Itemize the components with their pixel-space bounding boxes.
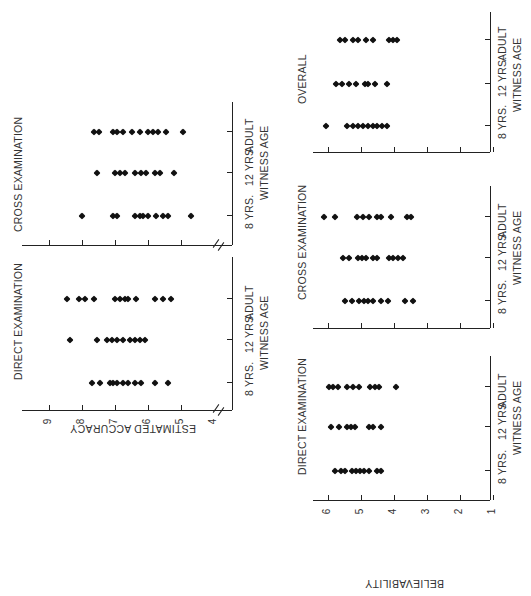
- accuracy-direct-axis-break: [213, 404, 220, 413]
- accuracy-direct-tick-label: 4: [207, 419, 218, 425]
- accuracy-direct-title: DIRECT EXAMINATION: [12, 263, 24, 380]
- accuracy-direct-category-tick: [227, 382, 232, 383]
- believability-direct-data-point: [336, 423, 343, 430]
- believability-overall-category-tick: [485, 125, 490, 126]
- accuracy-cross-data-point: [136, 128, 143, 135]
- believability-cross-data-point: [321, 213, 328, 220]
- accuracy-direct-data-point: [90, 295, 97, 302]
- believability-direct-tick-label: 5: [354, 509, 365, 515]
- believability-cross-tick: [493, 323, 494, 328]
- accuracy-cross-data-point: [121, 169, 128, 176]
- believability-direct-tick-label: 6: [321, 509, 332, 515]
- accuracy-cross-category-label: 8 YRS.: [243, 195, 255, 229]
- believability-direct-data-point: [378, 423, 385, 430]
- believability-direct-title: DIRECT EXAMINATION: [296, 358, 308, 475]
- accuracy-cross-data-point: [93, 169, 100, 176]
- believability-overall-data-point: [354, 36, 361, 43]
- believability-direct-category-label: ADULT: [496, 373, 508, 408]
- accuracy-direct-category-label: 8 YRS.: [243, 362, 255, 396]
- believability-direct-tick: [361, 495, 362, 500]
- believability-direct-tick: [328, 495, 329, 500]
- accuracy-cross-category-axis: [232, 102, 233, 245]
- accuracy-direct-data-point: [93, 336, 100, 343]
- believability-direct-data-point: [365, 467, 372, 474]
- accuracy-direct-value-axis: [22, 410, 232, 411]
- accuracy-direct-axis-break: [218, 407, 225, 416]
- believability-direct-tick-label: 1: [486, 509, 497, 515]
- believability-cross-tick: [427, 323, 428, 328]
- believability-overall-tick: [361, 147, 362, 152]
- believability-overall-category-tick: [485, 39, 490, 40]
- believability-overall-category-label: 12 YRS.: [496, 57, 508, 97]
- believability-cross-category-tick: [485, 216, 490, 217]
- believability-overall-data-point: [372, 80, 379, 87]
- believability-direct-value-axis: [313, 500, 490, 501]
- accuracy-cross-title: CROSS EXAMINATION: [12, 117, 24, 232]
- believability-cross-data-point: [409, 297, 416, 304]
- accuracy-direct-data-point: [164, 379, 171, 386]
- accuracy-direct-data-point: [97, 379, 104, 386]
- accuracy-cross-tick: [181, 240, 182, 245]
- believability-cross-tick: [361, 323, 362, 328]
- accuracy-direct-data-point: [82, 295, 89, 302]
- accuracy-direct-tick-label: 9: [42, 419, 53, 425]
- accuracy-direct-category-tick: [227, 298, 232, 299]
- accuracy-cross-tick: [115, 240, 116, 245]
- accuracy-direct-data-point: [159, 295, 166, 302]
- accuracy-cross-data-point: [179, 128, 186, 135]
- believability-direct-data-point: [376, 383, 383, 390]
- believability-direct-data-point: [392, 383, 399, 390]
- believability-overall-data-point: [341, 36, 348, 43]
- accuracy-cross-category-label: ADULT: [243, 118, 255, 153]
- accuracy-direct-data-point: [64, 295, 71, 302]
- accuracy-cross-data-point: [171, 169, 178, 176]
- accuracy-cross-data-point: [128, 128, 135, 135]
- believability-overall-data-point: [383, 80, 390, 87]
- believability-overall-tick: [328, 147, 329, 152]
- believability-cross-data-point: [331, 213, 338, 220]
- accuracy-direct-data-point: [125, 295, 132, 302]
- accuracy-direct-data-point: [133, 295, 140, 302]
- believability-direct-tick: [493, 495, 494, 500]
- accuracy-direct-tick: [148, 405, 149, 410]
- believability-cross-category-label: 8 YRS.: [496, 280, 508, 314]
- accuracy-direct-data-point: [168, 295, 175, 302]
- believability-direct-data-point: [334, 383, 341, 390]
- believability-cross-category-axis: [490, 186, 491, 328]
- believability-cross-category-label: ADULT: [496, 203, 508, 238]
- believability-overall-category-axis: [490, 12, 491, 152]
- believability-overall-tick: [493, 147, 494, 152]
- believability-cross-data-point: [388, 213, 395, 220]
- accuracy-direct-tick: [181, 405, 182, 410]
- believability-overall-data-point: [370, 36, 377, 43]
- accuracy-cross-category-tick: [227, 172, 232, 173]
- believability-cross-xlabel: WITNESS AGE: [511, 210, 523, 285]
- believability-overall-title: OVERALL: [296, 54, 308, 104]
- believability-cross-data-point: [399, 254, 406, 261]
- believability-ylabel: BELIEVABILITY: [365, 578, 444, 590]
- accuracy-direct-category-axis: [232, 257, 233, 410]
- accuracy-cross-axis-break: [218, 242, 225, 251]
- believability-direct-category-tick: [485, 386, 490, 387]
- believability-cross-title: CROSS EXAMINATION: [296, 185, 308, 300]
- accuracy-direct-tick: [82, 405, 83, 410]
- believability-direct-tick-label: 3: [420, 509, 431, 515]
- accuracy-direct-category-label: ADULT: [243, 285, 255, 320]
- believability-cross-data-point: [348, 297, 355, 304]
- accuracy-cross-data-point: [120, 128, 127, 135]
- believability-overall-category-label: 8 YRS.: [496, 105, 508, 139]
- accuracy-cross-data-point: [163, 128, 170, 135]
- believability-cross-data-point: [377, 297, 384, 304]
- accuracy-direct-tick: [49, 405, 50, 410]
- accuracy-cross-data-point: [143, 169, 150, 176]
- believability-cross-data-point: [346, 254, 353, 261]
- believability-overall-value-axis: [313, 152, 490, 153]
- believability-direct-tick-label: 4: [387, 509, 398, 515]
- accuracy-cross-value-axis: [22, 245, 232, 246]
- believability-direct-category-tick: [485, 470, 490, 471]
- accuracy-direct-category-tick: [227, 339, 232, 340]
- accuracy-ylabel: ESTIMATED ACCURACY: [70, 423, 196, 435]
- believability-overall-data-point: [345, 80, 352, 87]
- believability-overall-tick: [460, 147, 461, 152]
- believability-overall-tick: [394, 147, 395, 152]
